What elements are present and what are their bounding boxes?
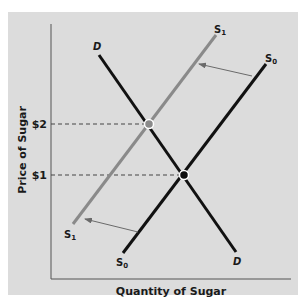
x-axis-title: Quantity of Sugar — [116, 285, 227, 298]
supply-demand-chart: $2 $1 Price of Sugar Quantity of Sugar D… — [0, 0, 308, 307]
shift-arrow-bottom — [85, 219, 138, 232]
equilibrium-original-marker — [180, 171, 189, 180]
equilibrium-new-marker — [145, 120, 154, 129]
demand-label-top: D — [93, 41, 101, 52]
demand-curve — [99, 55, 236, 252]
shift-arrow-top — [199, 64, 252, 76]
supply-curve-s0 — [123, 64, 266, 253]
tick-label-2: $2 — [32, 118, 47, 131]
s1-label-bottom: S1 — [64, 229, 76, 242]
supply-curve-s1 — [73, 35, 216, 224]
tick-label-1: $1 — [32, 169, 47, 182]
s0-label-top: S0 — [265, 53, 277, 66]
s0-label-bottom: S0 — [116, 257, 128, 270]
demand-label-bottom: D — [233, 256, 241, 267]
y-axis-title: Price of Sugar — [16, 106, 29, 194]
